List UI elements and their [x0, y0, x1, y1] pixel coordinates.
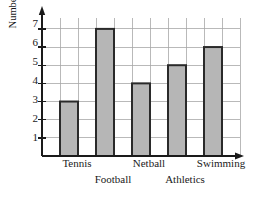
y-tick-label-7: 7	[24, 18, 38, 29]
y-tick-label-1: 1	[24, 132, 38, 143]
y-axis-tick-labels: 7 6 5 4 3 2 1	[22, 18, 38, 156]
x-axis-tick-labels: Tennis Football Netball Athletics Swimmi…	[42, 157, 252, 199]
y-axis-title: Number of children	[6, 0, 20, 42]
x-tick-label-athletics: Athletics	[148, 173, 222, 186]
y-tick-label-3: 3	[24, 94, 38, 105]
plot-area	[42, 18, 240, 156]
x-tick-label-football: Football	[76, 173, 150, 186]
y-axis-arrowhead	[39, 6, 45, 15]
x-tick-label-netball: Netball	[112, 157, 186, 170]
x-tick-label-tennis: Tennis	[40, 157, 114, 170]
y-tick-label-6: 6	[24, 37, 38, 48]
y-tick-label-2: 2	[24, 113, 38, 124]
bar-chart-figure: Number of children 7 6 5 4 3 2 1 Tennis …	[0, 0, 256, 199]
y-tick-label-4: 4	[24, 75, 38, 86]
x-tick-label-swimming: Swimming	[184, 157, 256, 170]
y-tick-label-5: 5	[24, 56, 38, 67]
axes-group	[42, 18, 240, 156]
